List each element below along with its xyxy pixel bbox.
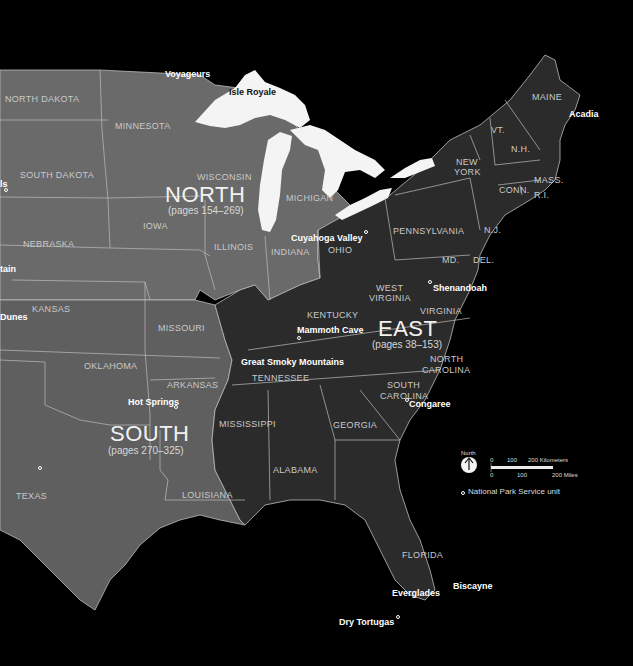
region-label-south: SOUTH [110,423,190,445]
state-label-ri: R.I. [534,191,549,200]
state-label-oklahoma: OKLAHOMA [84,362,137,371]
nps-unit-marker [174,405,178,409]
nps-unit-marker [405,398,409,402]
state-label-indiana: INDIANA [271,248,310,257]
scale-km-100: 100 [507,457,517,463]
state-label-west: WEST [376,284,403,293]
state-label-north-dakota: NORTH DAKOTA [5,95,79,104]
scale-km-200: 200 Kilometers [528,457,568,463]
state-label-west-virginia: VIRGINIA [369,294,411,303]
state-label-new: NEW [456,158,478,167]
scale-mi-100: 100 [517,472,527,478]
state-label-kentucky: KENTUCKY [307,311,358,320]
state-label-md: MD. [442,256,459,265]
state-label-illinois: ILLINOIS [214,243,253,252]
state-label-nj: N.J. [484,226,501,235]
state-label-nebraska: NEBRASKA [23,240,74,249]
scale-bar [491,463,553,472]
state-label-north-carolina: CAROLINA [422,366,470,375]
nps-unit-marker [297,336,301,340]
state-label-del: DEL. [473,256,494,265]
state-label-south: SOUTH [387,381,420,390]
park-label-cutoff-dunes: Dunes [0,313,28,322]
park-label-cuyahoga-valley: Cuyahoga Valley [291,234,363,243]
park-label-congaree: Congaree [409,400,451,409]
north-arrow-icon [461,457,477,473]
state-label-south-dakota: SOUTH DAKOTA [20,171,94,180]
state-label-missouri: MISSOURI [158,324,205,333]
legend-north-label: North [461,450,476,456]
state-label-ohio: OHIO [328,246,352,255]
legend-nps-unit: National Park Service unit [468,488,560,496]
state-label-mississippi: MISSISSIPPI [219,420,276,429]
region-pages-south: (pages 270–325) [108,446,184,456]
park-label-mammoth-cave: Mammoth Cave [297,326,364,335]
park-label-shenandoah: Shenandoah [433,284,487,293]
region-label-east: EAST [378,318,437,340]
state-label-minnesota: MINNESOTA [115,122,171,131]
nps-unit-marker [428,280,432,284]
state-label-vt: VT. [491,126,505,135]
scale-mi-200: 200 Miles [552,472,578,478]
region-pages-north: (pages 154–269) [168,206,244,216]
scale-km-0: 0 [490,457,493,463]
park-label-isle-royale: Isle Royale [229,88,276,97]
state-label-kansas: KANSAS [32,305,70,314]
park-label-cutoff-tain: tain [0,265,16,274]
park-label-dry-tortugas: Dry Tortugas [339,618,394,627]
state-label-wisconsin: WISCONSIN [197,173,252,182]
state-label-new-york: YORK [454,168,481,177]
state-label-louisiana: LOUISIANA [182,491,233,500]
state-label-arkansas: ARKANSAS [167,381,218,390]
state-label-mass: MASS. [534,176,564,185]
nps-unit-marker [396,615,400,619]
state-label-virginia: VIRGINIA [420,307,462,316]
park-label-voyageurs: Voyageurs [165,70,210,79]
state-label-conn: CONN. [499,186,530,195]
state-label-tennessee: TENNESSEE [252,374,309,383]
national-parks-region-map: NORTH (pages 154–269) EAST (pages 38–153… [0,0,633,666]
state-label-north: NORTH [430,355,463,364]
nps-unit-legend-icon [461,491,465,495]
scale-mi-0: 0 [490,472,493,478]
state-label-iowa: IOWA [143,222,168,231]
state-label-michigan: MICHIGAN [286,194,333,203]
state-label-maine: MAINE [532,93,562,102]
state-label-texas: TEXAS [16,492,47,501]
region-pages-east: (pages 38–153) [372,340,442,350]
state-label-georgia: GEORGIA [333,421,377,430]
park-label-biscayne: Biscayne [453,582,493,591]
park-label-acadia: Acadia [569,110,599,119]
nps-unit-marker [4,188,8,192]
park-label-hot-springs: Hot Springs [128,398,179,407]
state-label-pennsylvania: PENNSYLVANIA [393,227,464,236]
state-label-florida: FLORIDA [402,551,443,560]
state-label-nh: N.H. [511,145,530,154]
park-label-great-smoky-mountains: Great Smoky Mountains [241,358,344,367]
state-label-alabama: ALABAMA [273,466,318,475]
region-label-north: NORTH [165,184,245,206]
nps-unit-marker [38,466,42,470]
nps-unit-marker [364,230,368,234]
park-label-everglades: Everglades [392,589,440,598]
